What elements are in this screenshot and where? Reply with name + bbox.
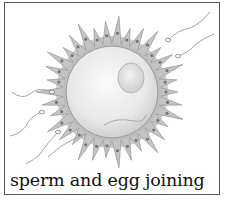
corona-cell-nucleus bbox=[165, 112, 168, 115]
sperm-head bbox=[39, 110, 44, 114]
corona-cell-nucleus bbox=[152, 128, 155, 131]
corona-cell-nucleus bbox=[136, 40, 139, 43]
corona-cell-nucleus bbox=[70, 54, 73, 57]
corona-cell-nucleus bbox=[60, 110, 63, 113]
corona-cell-nucleus bbox=[69, 128, 72, 131]
egg-nucleus bbox=[118, 63, 144, 93]
sperm-tail bbox=[168, 12, 210, 40]
corona-cell bbox=[111, 16, 121, 47]
egg-cell bbox=[66, 46, 158, 138]
sperm-head bbox=[49, 90, 54, 94]
figure-caption: sperm and egg joining bbox=[10, 170, 205, 190]
corona-cell-nucleus bbox=[134, 139, 137, 142]
corona-cell-nucleus bbox=[95, 145, 98, 148]
corona-cell-nucleus bbox=[166, 101, 169, 104]
corona-cell-nucleus bbox=[146, 43, 149, 46]
corona-cell-nucleus bbox=[58, 70, 61, 73]
corona-cell-nucleus bbox=[125, 38, 128, 41]
corona-cell-nucleus bbox=[55, 101, 58, 104]
corona-cell-nucleus bbox=[57, 80, 60, 83]
corona-cell-nucleus bbox=[60, 59, 63, 62]
corona-cell-nucleus bbox=[126, 145, 129, 148]
corona-cell-nucleus bbox=[164, 90, 167, 93]
corona-cell-nucleus bbox=[84, 38, 87, 41]
corona-cell-nucleus bbox=[105, 144, 108, 147]
corona-cell-nucleus bbox=[165, 69, 168, 72]
sperm-head bbox=[55, 130, 60, 134]
sperm-tail bbox=[26, 132, 58, 164]
corona-cell-nucleus bbox=[116, 149, 119, 152]
corona-cell-nucleus bbox=[96, 38, 99, 41]
corona-cell-nucleus bbox=[84, 143, 87, 146]
corona-cell-nucleus bbox=[156, 119, 159, 122]
corona-cell-nucleus bbox=[60, 121, 63, 124]
sperm-tail bbox=[178, 34, 214, 56]
corona-cell bbox=[111, 137, 121, 168]
corona-cell-nucleus bbox=[158, 61, 161, 64]
corona-cell-nucleus bbox=[105, 34, 108, 37]
corona-cell-nucleus bbox=[116, 32, 119, 35]
corona-cell-nucleus bbox=[146, 137, 149, 140]
sperm-head bbox=[165, 38, 170, 42]
corona-cell-nucleus bbox=[150, 54, 153, 57]
sperm-tail bbox=[10, 112, 42, 136]
corona-cell-nucleus bbox=[76, 45, 79, 48]
corona-cell-nucleus bbox=[163, 80, 166, 83]
sperm-head bbox=[175, 54, 180, 58]
